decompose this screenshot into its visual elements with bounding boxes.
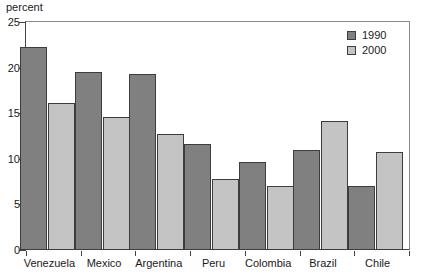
bar-mexico-1990 [75, 72, 102, 250]
y-axis-tick-label: 0 [0, 245, 20, 256]
bar-group [135, 22, 190, 250]
bar-peru-1990 [184, 144, 211, 250]
legend-label-2000: 2000 [362, 45, 386, 56]
legend-swatch-2000 [347, 46, 356, 55]
x-axis-label-argentina: Argentina [135, 257, 182, 270]
y-axis-tick-label: 10 [0, 154, 20, 165]
y-axis-tick [19, 22, 26, 23]
bar-mexico-2000 [103, 117, 130, 250]
bar-peru-2000 [212, 179, 239, 250]
legend-label-1990: 1990 [362, 30, 386, 41]
y-axis-tick [19, 250, 26, 251]
bar-group [245, 22, 300, 250]
legend-item-2000: 2000 [347, 44, 386, 57]
y-axis-tick-label: 15 [0, 108, 20, 119]
bar-venezuela-2000 [48, 103, 75, 250]
x-axis-tick [354, 251, 355, 256]
x-axis-tick [245, 251, 246, 256]
y-axis-unit-label: percent [6, 1, 43, 14]
bar-chile-1990 [348, 186, 375, 250]
x-axis-label-mexico: Mexico [87, 257, 122, 270]
bar-group [26, 22, 81, 250]
bar-colombia-2000 [267, 186, 294, 250]
chart-legend: 19902000 [347, 29, 386, 59]
bar-brazil-2000 [321, 121, 348, 251]
x-axis-label-peru: Peru [202, 257, 225, 270]
x-axis-tick [135, 251, 136, 256]
x-axis-tick [190, 251, 191, 256]
bar-venezuela-1990 [20, 47, 47, 250]
bar-group [190, 22, 245, 250]
x-axis-tick [409, 251, 410, 256]
bar-brazil-1990 [293, 150, 320, 250]
legend-swatch-1990 [347, 31, 356, 40]
legend-item-1990: 1990 [347, 29, 386, 42]
bar-chart: percent 0510152025 VenezuelaMexicoArgent… [0, 0, 426, 278]
y-axis-tick-label: 20 [0, 63, 20, 74]
y-axis-tick-label: 5 [0, 199, 20, 210]
x-axis-tick [300, 251, 301, 256]
y-axis-tick-label: 25 [0, 17, 20, 28]
bar-group [81, 22, 136, 250]
x-axis-tick [26, 251, 27, 256]
x-axis-label-brazil: Brazil [309, 257, 337, 270]
bar-argentina-1990 [129, 74, 156, 250]
bar-chile-2000 [376, 152, 403, 250]
bar-argentina-2000 [157, 134, 184, 250]
x-axis-tick [81, 251, 82, 256]
bar-colombia-1990 [239, 162, 266, 250]
x-axis-label-chile: Chile [365, 257, 390, 270]
x-axis-label-venezuela: Venezuela [24, 257, 75, 270]
x-axis-label-colombia: Colombia [245, 257, 291, 270]
